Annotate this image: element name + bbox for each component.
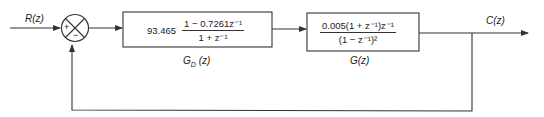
controller-gain: 93.465 — [147, 25, 176, 36]
plant-transfer-function: 0.005(1 + z⁻¹)z⁻¹ (1 − z⁻¹)² — [320, 14, 396, 50]
controller-transfer-function: 93.465 1 − 0.7261z⁻¹ 1 + z⁻¹ — [147, 13, 244, 47]
controller-fraction: 1 − 0.7261z⁻¹ 1 + z⁻¹ — [182, 18, 244, 43]
controller-label: GD (z) — [183, 55, 210, 68]
controller-denominator: 1 + z⁻¹ — [199, 31, 228, 43]
controller-numerator: 1 − 0.7261z⁻¹ — [182, 18, 244, 31]
plant-label: G(z) — [350, 55, 369, 66]
block-diagram-lines — [0, 0, 544, 117]
plant-denominator: (1 − z⁻¹)² — [339, 33, 378, 45]
plant-numerator: 0.005(1 + z⁻¹)z⁻¹ — [320, 20, 396, 33]
plus-sign: + — [64, 22, 69, 32]
minus-sign: − — [73, 30, 78, 40]
plant-fraction: 0.005(1 + z⁻¹)z⁻¹ (1 − z⁻¹)² — [320, 20, 396, 45]
output-label: C(z) — [486, 15, 505, 26]
input-label: R(z) — [25, 13, 44, 24]
